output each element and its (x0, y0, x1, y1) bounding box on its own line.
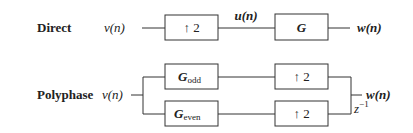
direct-upsampler-label: ↑ 2 (183, 20, 199, 35)
direct-title: Direct (37, 20, 72, 35)
direct-intermediate-label: u(n) (234, 8, 257, 23)
polyphase-output-label: w(n) (366, 87, 391, 102)
direct-output-label: w(n) (357, 20, 382, 35)
direct-filter-label: G (297, 20, 307, 35)
upsampler-bottom-label: ↑ 2 (293, 106, 309, 121)
polyphase-input-label: v(n) (102, 87, 123, 102)
block-diagram: Direct v(n) ↑ 2 u(n) G w(n) Polyphase v(… (0, 0, 413, 133)
direct-input-label: v(n) (104, 20, 125, 35)
polyphase-title: Polyphase (37, 87, 94, 102)
delay-label: z−1 (353, 99, 369, 116)
upsampler-top-label: ↑ 2 (293, 69, 309, 84)
